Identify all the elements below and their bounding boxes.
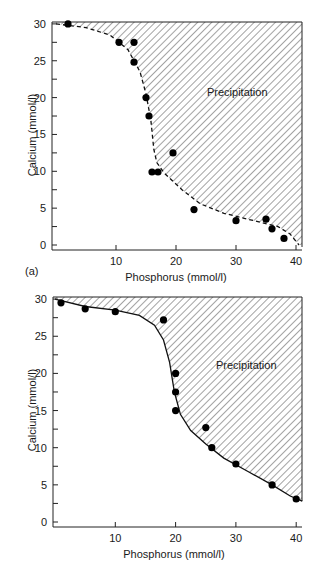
data-point [208, 444, 215, 451]
y-tick-label: 25 [35, 330, 47, 342]
data-point [232, 460, 239, 467]
data-point [82, 305, 89, 312]
y-tick-label: 25 [34, 55, 46, 67]
y-tick-label: 5 [41, 479, 47, 491]
data-point [130, 59, 137, 66]
x-tick-label: 20 [169, 532, 181, 544]
data-point [57, 299, 64, 306]
data-point [172, 407, 179, 414]
x-tick-label: 30 [230, 532, 242, 544]
data-point [130, 39, 137, 46]
data-point [172, 370, 179, 377]
y-tick-label: 30 [34, 18, 46, 30]
data-point [280, 235, 287, 242]
x-tick-label: 20 [170, 255, 182, 267]
data-point [202, 424, 209, 431]
data-point [172, 388, 179, 395]
x-tick-label: 40 [290, 255, 302, 267]
panel-label: (a) [25, 265, 38, 277]
data-point [115, 39, 122, 46]
data-point [232, 217, 239, 224]
data-point [268, 225, 275, 232]
x-tick-label: 30 [230, 255, 242, 267]
data-point [269, 481, 276, 488]
y-tick-label: 0 [41, 516, 47, 528]
y-axis-label: Calcium (mmol/l) [26, 94, 38, 177]
data-point [293, 495, 300, 502]
precipitation-label: Precipitation [207, 86, 268, 98]
x-tick-label: 10 [110, 255, 122, 267]
x-axis-label: Phosphorus (mmol/l) [125, 271, 226, 283]
chart-panel-a: 05101520253010203040 Precipitation Phosp… [25, 18, 302, 283]
figure: 05101520253010203040 Precipitation Phosp… [0, 0, 316, 570]
data-point [154, 168, 161, 175]
precipitation-region [55, 297, 302, 501]
precipitation-label: Precipitation [216, 359, 277, 371]
data-point [262, 216, 269, 223]
chart-panel-b: 05101520253010203040 Precipitation Phosp… [26, 293, 302, 560]
data-point [112, 308, 119, 315]
data-point [142, 94, 149, 101]
data-point [190, 206, 197, 213]
x-tick-label: 10 [109, 532, 121, 544]
data-point [160, 316, 167, 323]
y-tick-label: 30 [35, 293, 47, 305]
x-tick-label: 40 [290, 532, 302, 544]
precipitation-region [56, 22, 302, 245]
y-tick-label: 0 [40, 239, 46, 251]
data-point [145, 112, 152, 119]
x-axis-label: Phosphorus (mmol/l) [123, 548, 224, 560]
y-axis-label: Calcium (mmol/l) [26, 369, 38, 452]
y-tick-label: 5 [40, 202, 46, 214]
data-point [169, 149, 176, 156]
data-point [64, 20, 71, 27]
